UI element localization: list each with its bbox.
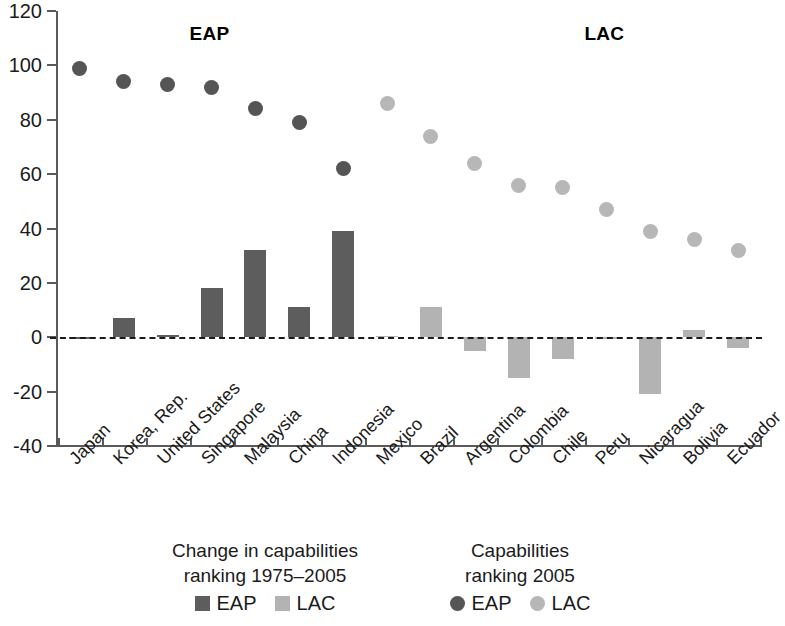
legend-block-ranking: Capabilities ranking 2005 EAP LAC: [420, 538, 620, 613]
legend-title2-line1: Capabilities: [420, 538, 620, 563]
y-axis-tick: [47, 64, 56, 66]
legend-swatch-eap-square: [195, 596, 210, 611]
plot-area: [56, 11, 756, 446]
chart-legend: Change in capabilities ranking 1975–2005…: [0, 538, 764, 626]
bar-chile: [552, 337, 574, 359]
y-axis-tick-label: 40: [20, 219, 42, 239]
region-label-lac: LAC: [584, 23, 624, 45]
legend-label-lac-bar: LAC: [297, 593, 336, 613]
legend-title2-line2: ranking 2005: [420, 563, 620, 588]
y-axis-tick-label: 0: [31, 327, 42, 347]
y-axis-tick-label: -20: [13, 382, 42, 402]
y-axis-tick: [47, 228, 56, 230]
legend-swatch-eap-circle: [450, 596, 465, 611]
dot-bolivia: [687, 232, 702, 247]
legend-keys-change: EAP LAC: [150, 593, 380, 613]
legend-key-lac-bar: LAC: [275, 593, 336, 613]
dot-brazil: [423, 129, 438, 144]
y-axis-tick: [47, 445, 56, 447]
bar-brazil: [420, 307, 442, 337]
dot-argentina: [467, 156, 482, 171]
dot-nicaragua: [643, 224, 658, 239]
legend-keys-ranking: EAP LAC: [420, 593, 620, 613]
legend-label-eap-dot: EAP: [472, 593, 512, 613]
bar-bolivia: [683, 330, 705, 337]
legend-key-lac-dot: LAC: [530, 593, 591, 613]
y-axis-tick-label: -40: [13, 436, 42, 456]
dot-korea-rep-: [116, 74, 131, 89]
bar-malaysia: [244, 250, 266, 337]
legend-title-line1: Change in capabilities: [150, 538, 380, 563]
legend-label-eap-bar: EAP: [217, 593, 257, 613]
dot-peru: [599, 202, 614, 217]
bar-nicaragua: [639, 337, 661, 394]
x-axis-tick: [58, 438, 60, 447]
dot-ecuador: [731, 243, 746, 258]
dot-united-states: [160, 77, 175, 92]
y-axis-tick-label: 60: [20, 164, 42, 184]
bar-singapore: [201, 288, 223, 337]
y-axis-tick: [47, 391, 56, 393]
legend-title-line2: ranking 1975–2005: [150, 563, 380, 588]
bar-argentina: [464, 337, 486, 351]
bar-indonesia: [332, 231, 354, 337]
zero-line: [50, 337, 762, 339]
y-axis-line: [56, 11, 58, 447]
legend-key-eap-bar: EAP: [195, 593, 257, 613]
bar-colombia: [508, 337, 530, 378]
legend-swatch-lac-square: [275, 596, 290, 611]
legend-label-lac-dot: LAC: [552, 593, 591, 613]
y-axis-tick: [47, 282, 56, 284]
dot-colombia: [511, 178, 526, 193]
legend-swatch-lac-circle: [530, 596, 545, 611]
y-axis-tick: [47, 173, 56, 175]
region-label-eap: EAP: [190, 23, 230, 45]
dot-chile: [555, 180, 570, 195]
y-axis-tick-label: 80: [20, 110, 42, 130]
y-axis-tick-label: 20: [20, 273, 42, 293]
dot-china: [292, 115, 307, 130]
dot-malaysia: [248, 101, 263, 116]
dot-indonesia: [336, 161, 351, 176]
dot-singapore: [204, 80, 219, 95]
dot-japan: [72, 61, 87, 76]
bar-china: [288, 307, 310, 337]
y-axis-tick: [47, 119, 56, 121]
bar-korea-rep-: [113, 318, 135, 337]
legend-key-eap-dot: EAP: [450, 593, 512, 613]
y-axis-tick-label: 100: [9, 55, 42, 75]
y-axis-tick: [47, 10, 56, 12]
legend-block-change: Change in capabilities ranking 1975–2005…: [150, 538, 380, 613]
y-axis-tick-label: 120: [9, 1, 42, 21]
dot-mexico: [380, 96, 395, 111]
